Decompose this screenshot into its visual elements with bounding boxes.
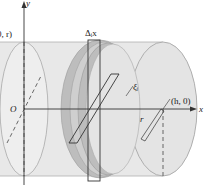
origin-label: O xyxy=(10,104,17,114)
radius-label: r xyxy=(140,114,144,124)
point-h0-label: (h, 0) xyxy=(171,96,191,106)
xi-label: ξᵢ xyxy=(133,82,139,92)
cylinder-diagram: y x O (0, r) Δᵢx ξᵢ (h, 0) r xyxy=(0,0,205,185)
x-axis-label: x xyxy=(198,104,203,114)
delta-x-label: Δᵢx xyxy=(85,28,97,38)
y-axis-label: y xyxy=(25,0,30,8)
point-0r-label: (0, r) xyxy=(0,29,12,39)
